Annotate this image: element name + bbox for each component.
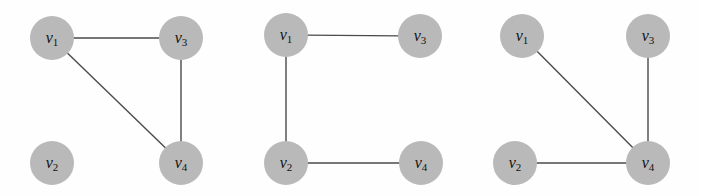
graph-3: v1v3v2v4 xyxy=(493,14,670,185)
graph-edge-v1-v4 xyxy=(536,50,634,149)
graph-node-v1[interactable]: v1 xyxy=(30,16,74,60)
graph-edge-v1-v3 xyxy=(306,35,400,36)
graph-node-v1[interactable]: v1 xyxy=(500,14,544,58)
graph-node-v1[interactable]: v1 xyxy=(264,13,308,57)
graph-node-v2[interactable]: v2 xyxy=(264,141,308,185)
graph-edge-v1-v4 xyxy=(66,52,166,149)
graph-node-v4[interactable]: v4 xyxy=(626,141,670,185)
graph-node-v2[interactable]: v2 xyxy=(493,141,537,185)
graph-2: v1v3v2v4 xyxy=(264,13,443,185)
graph-node-v4[interactable]: v4 xyxy=(399,141,443,185)
graph-node-v4[interactable]: v4 xyxy=(159,141,203,185)
graph-1: v1v3v2v4 xyxy=(30,16,203,185)
graph-3-edge-layer xyxy=(535,50,648,163)
graph-figure: v1v3v2v4v1v3v2v4v1v3v2v4 xyxy=(0,0,701,196)
graph-node-v3[interactable]: v3 xyxy=(398,14,442,58)
graph-node-v3[interactable]: v3 xyxy=(626,14,670,58)
graph-2-edge-layer xyxy=(286,35,401,163)
graph-node-v2[interactable]: v2 xyxy=(30,141,74,185)
graph-canvas: v1v3v2v4v1v3v2v4v1v3v2v4 xyxy=(0,0,701,196)
graph-node-v3[interactable]: v3 xyxy=(159,16,203,60)
graph-1-edge-layer xyxy=(66,38,181,149)
